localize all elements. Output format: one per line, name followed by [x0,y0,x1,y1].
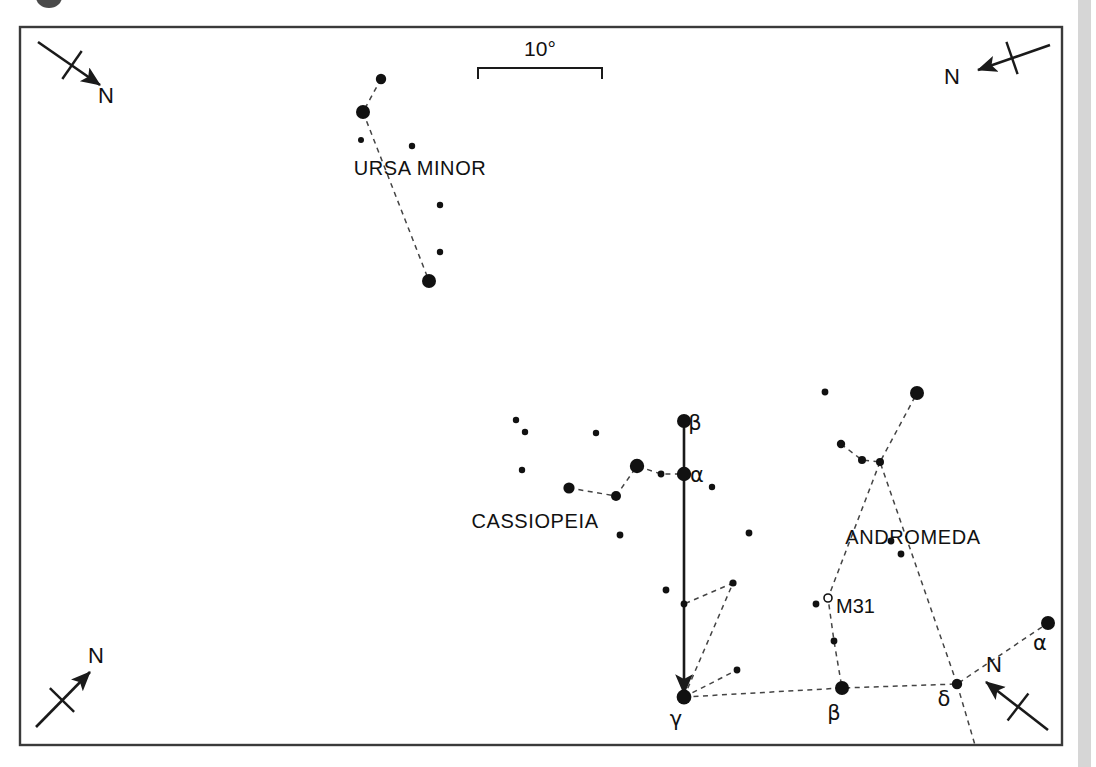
greek-star-label: γ [670,707,682,731]
north-arrow-top-left: N [38,42,114,108]
north-arrow-shaft [38,42,100,85]
star-dot [681,601,688,608]
star-dot [746,530,753,537]
m31-open-circle-icon [824,594,832,602]
star-dot [409,143,415,149]
star-dot [677,690,692,705]
chart-frame [20,27,1062,745]
star-dot [910,386,924,400]
star-dot [593,430,599,436]
star-dot [1041,616,1055,630]
greek-star-label: α [1033,631,1047,655]
star-dot [519,467,525,473]
constellation-line [569,466,684,496]
north-label: N [98,83,114,108]
star-dot [709,484,715,490]
star-dot [952,679,962,689]
star-dot [617,532,624,539]
star-dot [835,681,849,695]
scale-bar-label: 10° [524,37,556,60]
star-dot [376,74,386,84]
constellation-line [363,79,429,281]
greek-star-label: α [690,463,704,487]
greek-star-label: β [827,701,840,725]
star-dot [611,491,621,501]
constellation-labels: URSA MINORCASSIOPEIAANDROMEDA [354,157,981,548]
star-chart-figure: 10° NNNN URSA MINORCASSIOPEIAANDROMEDA β… [0,0,1096,767]
star-dot [513,417,519,423]
north-label: N [986,652,1002,677]
constellation-line [684,583,733,697]
greek-star-label: β [688,411,701,435]
north-arrow-shaft [986,682,1048,730]
constellation-name-label: CASSIOPEIA [471,510,598,532]
constellation-name-label: ANDROMEDA [845,526,980,548]
north-arrow-top-right: N [944,42,1050,89]
north-arrow-bottom-left: N [36,643,104,727]
constellation-line [684,670,737,697]
star-chart-canvas: 10° NNNN URSA MINORCASSIOPEIAANDROMEDA β… [0,0,1096,767]
star-dot [813,601,820,608]
star-dot [658,471,665,478]
star-dot [729,579,736,586]
star-dot [522,429,528,435]
star-dot [677,467,691,481]
north-arrow-cross-tick [62,51,81,79]
star-dot [437,202,443,208]
star-dot [898,551,905,558]
constellation-line [828,462,880,688]
star-dot [734,667,741,674]
north-arrow-cross-tick [1008,694,1029,721]
north-arrow-bottom-right: N [986,652,1048,730]
page-edge-strip [1078,0,1091,767]
star-dot [663,587,670,594]
star-dot [837,440,845,448]
north-label: N [944,64,960,89]
greek-star-label: δ [938,687,951,711]
object-labels: M31 [836,595,875,617]
star-dot [422,274,436,288]
star-dot [630,459,644,473]
north-arrows: NNNN [36,42,1050,730]
star-dot [822,389,829,396]
deep-sky-markers [824,594,832,602]
star-dot [876,458,884,466]
star-dot [356,105,370,119]
star-dot [437,249,443,255]
scale-bar: 10° [478,37,602,79]
constellation-line [957,684,975,745]
star-dot [563,482,574,493]
north-label: N [88,643,104,668]
star-dot [858,456,866,464]
object-label: M31 [836,595,875,617]
star-dot [831,638,838,645]
star-dot [358,137,364,143]
constellation-name-label: URSA MINOR [354,157,487,179]
